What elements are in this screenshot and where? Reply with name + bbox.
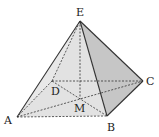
label-c: C <box>146 75 154 88</box>
label-m: M <box>74 102 85 115</box>
label-e: E <box>76 6 84 19</box>
label-d: D <box>51 85 60 98</box>
pyramid-diagram: E A B C D M <box>0 0 159 137</box>
label-a: A <box>3 114 13 127</box>
label-b: B <box>107 121 115 134</box>
